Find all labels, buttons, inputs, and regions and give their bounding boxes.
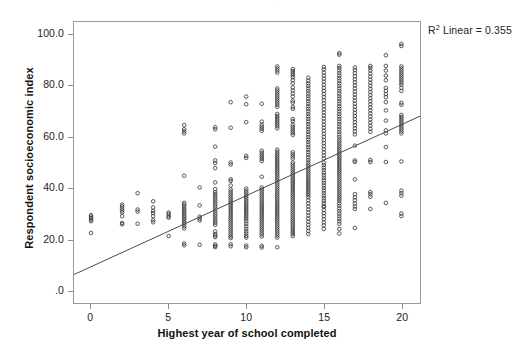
x-tick-label: 0 <box>70 311 110 323</box>
x-tick-label: 10 <box>226 311 266 323</box>
x-tick-mark <box>324 304 325 309</box>
y-tick-mark <box>68 34 73 35</box>
ghost-title: Scatterplot <box>0 0 530 2</box>
y-tick-mark <box>68 291 73 292</box>
scatterplot-figure: Scatterplot R2 Linear = 0.355 Respondent… <box>0 0 530 350</box>
r-squared-annotation: R2 Linear = 0.355 <box>428 24 512 36</box>
cut-off-title-strip: Scatterplot <box>0 0 530 9</box>
y-tick-mark <box>68 240 73 241</box>
y-tick-label: 60.0 <box>43 130 64 142</box>
x-tick-label: 15 <box>304 311 344 323</box>
y-axis-title: Respondent socioeconomic index <box>23 43 35 273</box>
linear-fit-line <box>74 116 420 274</box>
x-tick-label: 20 <box>382 311 422 323</box>
y-tick-mark <box>68 137 73 138</box>
y-tick-label: .0 <box>55 284 64 296</box>
x-tick-mark <box>246 304 247 309</box>
x-tick-label: 5 <box>148 311 188 323</box>
x-tick-mark <box>402 304 403 309</box>
regression-line-layer <box>74 22 420 303</box>
y-tick-label: 80.0 <box>43 78 64 90</box>
plot-area <box>74 22 420 303</box>
y-tick-label: 40.0 <box>43 181 64 193</box>
x-tick-mark <box>168 304 169 309</box>
y-tick-mark <box>68 188 73 189</box>
plot-frame <box>73 21 421 304</box>
r-squared-prefix: R <box>428 24 436 36</box>
x-axis-title: Highest year of school completed <box>73 327 421 339</box>
x-tick-mark <box>90 304 91 309</box>
y-tick-label: 100.0 <box>37 27 64 39</box>
y-tick-label: 20.0 <box>43 233 64 245</box>
r-squared-value-text: Linear = 0.355 <box>440 24 512 36</box>
y-tick-mark <box>68 85 73 86</box>
